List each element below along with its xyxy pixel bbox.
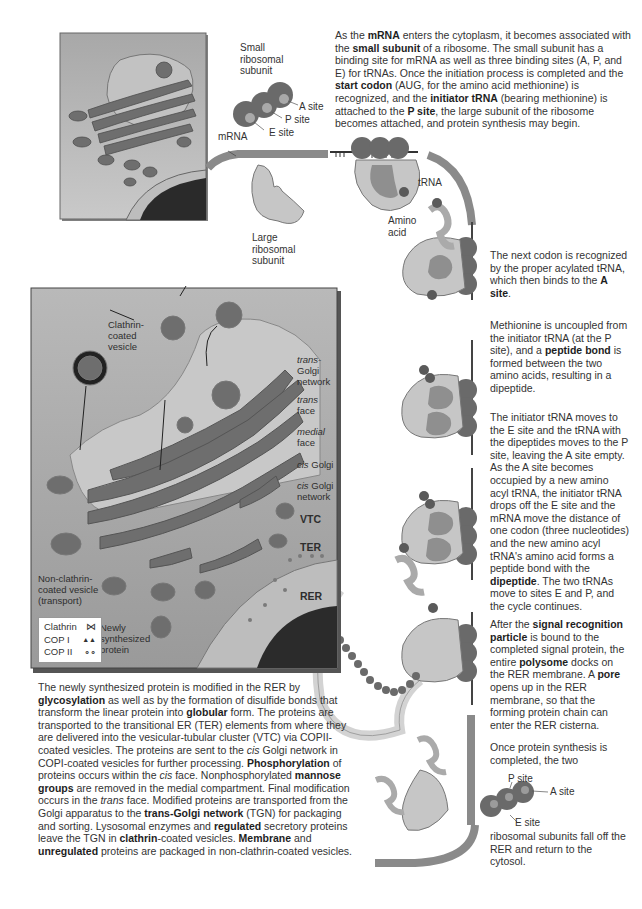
label-bottom-e-site: E site (515, 817, 540, 829)
mrna-arc (428, 155, 472, 225)
label-non-clathrin-vesicle: Non-clathrin-coated vesicle (transport) (38, 573, 100, 606)
initiation-complex (330, 137, 420, 211)
bottom-caption: ribosomal subunits fall off the RER and … (490, 830, 630, 868)
golgi-paragraph: The newly synthesized protein is modifie… (38, 681, 353, 857)
label-rer: RER (300, 591, 322, 602)
label-ter: TER (300, 542, 321, 553)
label-e-site: E site (269, 127, 294, 139)
golgi-panel (31, 286, 341, 673)
label-amino-acid: Amino acid (388, 215, 428, 238)
copii-symbol-icon: ∘∘ (84, 646, 96, 659)
legend-row-copi: COP I▲▲ (44, 634, 96, 647)
large-subunit-shape (252, 165, 304, 223)
label-small-subunit: Small ribosomal subunit (240, 42, 300, 77)
label-clathrin-vesicle: Clathrin-coated vesicle (108, 319, 156, 352)
step-2-text: Methionine is uncoupled from the initiat… (490, 319, 630, 395)
legend-row-clathrin: Clathrin⋈ (44, 621, 96, 634)
label-large-subunit: Large ribosomal subunit (252, 232, 312, 267)
label-medial-face: medialface (297, 426, 337, 448)
free-small-subunit (480, 781, 548, 822)
cell-inset-top (60, 33, 208, 221)
mrna-strand (208, 154, 328, 168)
label-bottom-a-site: A site (550, 786, 574, 798)
label-trans-golgi-network: trans-Golgi network (297, 354, 339, 387)
label-trna: tRNA (418, 177, 442, 189)
label-trans-face: transface (297, 394, 337, 416)
legend-row-copii: COP II∘∘ (44, 646, 96, 659)
label-cis-golgi-network: cis Golgi network (297, 480, 337, 502)
elongation-ribosomes (396, 198, 477, 592)
label-mrna: mRNA (218, 131, 247, 143)
coat-legend: Clathrin⋈ COP I▲▲ COP II∘∘ (38, 617, 102, 663)
label-bottom-p-site: P site (508, 773, 533, 785)
label-newly-synthesized: Newly synthesized protein (100, 622, 152, 655)
step-4-text: After the signal recognition particle is… (490, 618, 630, 731)
intro-paragraph: As the mRNA enters the cytoplasm, it bec… (335, 29, 635, 130)
label-a-site: A site (299, 101, 323, 113)
label-p-site: P site (285, 114, 310, 126)
step-3-text: The initiator tRNA moves to the E site a… (490, 411, 630, 613)
copi-symbol-icon: ▲▲ (82, 634, 96, 647)
label-vtc: VTC (300, 514, 321, 525)
label-cis-golgi: cis Golgi (297, 459, 337, 470)
step-5-text: Once protein synthesis is completed, the… (490, 741, 630, 766)
clathrin-symbol-icon: ⋈ (86, 621, 96, 634)
step-1-text: The next codon is recognized by the prop… (490, 249, 630, 299)
